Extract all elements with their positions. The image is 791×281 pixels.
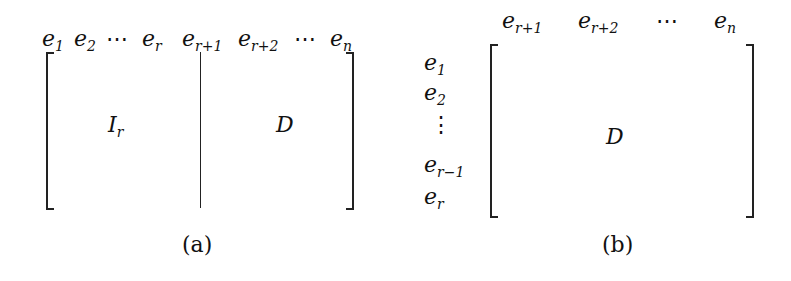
figure: e1 e2 ⋯ er er+1 er+2 ⋯ en Ir D (a) er+1 … <box>0 0 791 281</box>
left-bracket <box>46 52 54 210</box>
row-label: e2 <box>424 80 446 108</box>
col-label: er+2 <box>578 8 618 36</box>
row-ellipsis: ⋮ <box>430 112 452 137</box>
col-label: er+1 <box>502 8 542 36</box>
col-label: en <box>330 26 352 54</box>
identity-block: Ir <box>108 112 123 140</box>
col-label: er <box>142 26 162 54</box>
row-label: e1 <box>424 50 446 78</box>
col-label: er+1 <box>182 26 222 54</box>
col-ellipsis: ⋯ <box>294 26 316 51</box>
col-label: e2 <box>74 26 96 54</box>
right-bracket <box>346 52 354 210</box>
col-ellipsis: ⋯ <box>106 26 128 51</box>
col-ellipsis: ⋯ <box>656 8 678 33</box>
d-block: D <box>606 124 624 149</box>
caption-b: (b) <box>602 232 633 257</box>
row-label: er−1 <box>424 152 464 180</box>
d-block: D <box>276 112 294 137</box>
col-label: en <box>714 8 736 36</box>
right-bracket <box>746 44 754 218</box>
col-label: e1 <box>42 26 64 54</box>
caption-a: (a) <box>182 232 212 257</box>
left-bracket <box>490 44 498 218</box>
row-label: er <box>424 184 444 212</box>
col-label: er+2 <box>238 26 278 54</box>
divider-line <box>200 52 201 208</box>
